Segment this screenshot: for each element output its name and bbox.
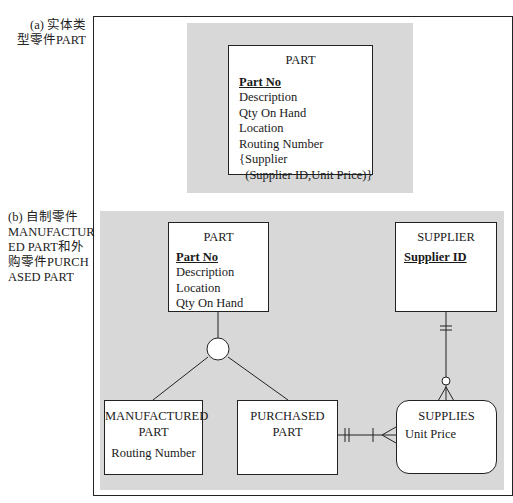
attribute: Description — [169, 265, 268, 281]
primary-key: Part No — [169, 250, 268, 266]
entity-title-line2: PART — [238, 425, 337, 441]
entity-purchased-part: PURCHASED PART — [237, 400, 338, 475]
entity-title: SUPPLIER — [396, 230, 496, 246]
entity-title: SUPPLIES — [397, 409, 496, 425]
attribute: Location — [169, 281, 268, 297]
entity-supplies: SUPPLIES Unit Price — [396, 400, 497, 474]
entity-title-line1: PURCHASED — [238, 409, 337, 425]
subtype-circle-icon — [207, 338, 229, 360]
attribute: Unit Price — [397, 427, 496, 443]
optional-circle-icon — [442, 377, 450, 385]
entity-title-line1: MANUFACTURED — [105, 409, 202, 425]
attribute: Qty On Hand — [169, 296, 268, 312]
entity-title: PART — [169, 230, 268, 246]
entity-supplier: SUPPLIER Supplier ID — [395, 222, 497, 312]
attribute: Routing Number — [105, 446, 202, 462]
primary-key: Supplier ID — [396, 250, 496, 266]
entity-manufactured-part: MANUFACTURED PART Routing Number — [104, 400, 203, 475]
entity-part-b: PART Part No Description Location Qty On… — [168, 222, 269, 312]
entity-title-line2: PART — [105, 425, 202, 441]
